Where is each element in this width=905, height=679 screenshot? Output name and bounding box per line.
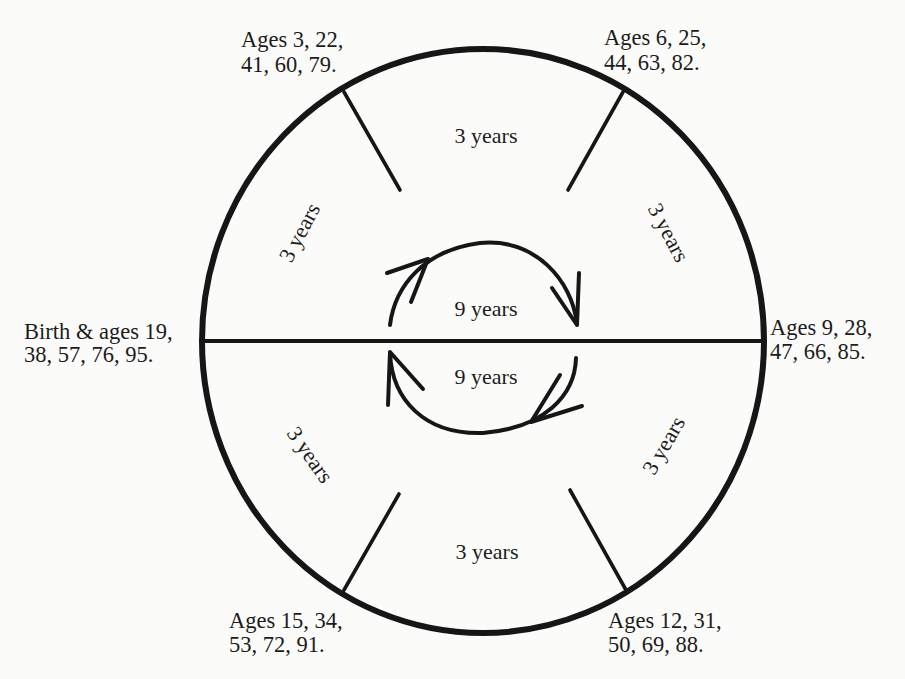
segment-label-upper-left: 3 years [274, 199, 326, 266]
segment-label-lower-right: 3 years [637, 412, 690, 479]
spoke-bottom-right [570, 490, 626, 590]
segment-label-bottom: 3 years [456, 539, 519, 564]
spoke-top-right [568, 92, 623, 190]
node-label-right: Ages 9, 28, 47, 66, 85. [770, 315, 873, 364]
svg-text:Ages 9, 28,: Ages 9, 28, [770, 315, 873, 340]
svg-text:44, 63, 82.: 44, 63, 82. [604, 50, 700, 75]
lower-arc-arrowhead-right [531, 375, 582, 422]
upper-cycle-label: 9 years [455, 296, 518, 321]
node-label-top-right: Ages 6, 25, 44, 63, 82. [604, 25, 707, 75]
svg-text:Birth & ages 19,: Birth & ages 19, [24, 319, 173, 344]
segment-label-upper-right: 3 years [643, 199, 695, 266]
spoke-bottom-left [344, 494, 399, 590]
segment-label-lower-left: 3 years [282, 422, 339, 488]
node-label-bottom-left: Ages 15, 34, 53, 72, 91. [229, 608, 343, 657]
svg-text:Ages 6, 25,: Ages 6, 25, [604, 25, 707, 50]
svg-text:38, 57, 76, 95.: 38, 57, 76, 95. [24, 342, 153, 367]
lower-cycle-label: 9 years [455, 364, 518, 389]
segment-label-top: 3 years [455, 123, 518, 148]
svg-text:47, 66, 85.: 47, 66, 85. [770, 339, 866, 364]
svg-text:53, 72, 91.: 53, 72, 91. [229, 632, 325, 657]
svg-text:Ages 12, 31,: Ages 12, 31, [608, 608, 722, 633]
svg-text:Ages 3, 22,: Ages 3, 22, [241, 27, 344, 52]
svg-text:Ages 15, 34,: Ages 15, 34, [229, 608, 343, 633]
node-label-top-left: Ages 3, 22, 41, 60, 79. [241, 27, 344, 77]
nineteen-year-cycle-diagram: 9 years 9 years 3 years 3 years 3 years … [0, 0, 905, 679]
svg-text:41, 60, 79.: 41, 60, 79. [241, 52, 337, 77]
node-label-bottom-right: Ages 12, 31, 50, 69, 88. [608, 608, 722, 657]
svg-text:50, 69, 88.: 50, 69, 88. [608, 632, 704, 657]
node-label-left: Birth & ages 19, 38, 57, 76, 95. [24, 319, 173, 367]
spoke-top-left [344, 92, 400, 190]
